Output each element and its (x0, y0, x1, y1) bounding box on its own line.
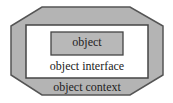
object-context-label: object context (11, 80, 163, 94)
object-label: object (51, 35, 123, 49)
object-interface-label: object interface (26, 59, 148, 73)
